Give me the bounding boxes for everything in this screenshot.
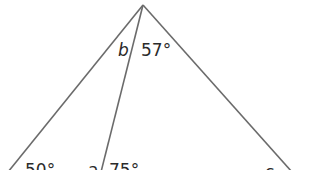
angle-label-c: c — [265, 162, 274, 170]
triangle-diagram: b 57° 50° a 75° c — [0, 0, 313, 170]
angle-label-a: a — [88, 160, 98, 170]
right-side-line — [143, 5, 292, 170]
angle-label-50: 50° — [25, 160, 55, 170]
angle-label-57: 57° — [141, 40, 171, 60]
angle-label-b: b — [118, 40, 129, 60]
angle-label-75: 75° — [109, 160, 139, 170]
